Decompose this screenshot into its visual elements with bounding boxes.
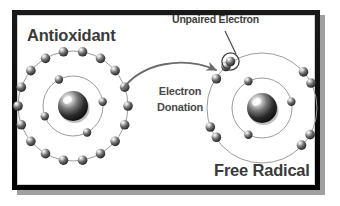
electron (55, 75, 63, 83)
unpaired-electron-label: Unpaired Electron (172, 14, 259, 25)
electron (17, 82, 27, 92)
electron (206, 122, 216, 132)
electron (110, 66, 120, 76)
electron (299, 67, 309, 77)
electron (59, 155, 69, 165)
electron-donation-line-2: Donation (144, 100, 216, 116)
electron (96, 54, 106, 64)
electron (78, 47, 88, 57)
electron (59, 47, 69, 57)
electron (26, 137, 36, 147)
electron (83, 128, 91, 136)
page-title-antioxidant: Antioxidant (27, 27, 116, 44)
electron (123, 101, 133, 111)
electron-donation-label: Electron Donation (144, 84, 216, 116)
electron (305, 130, 315, 140)
electron (287, 98, 295, 106)
electron (41, 149, 51, 159)
electron (78, 155, 88, 165)
electron (212, 132, 222, 142)
electron (96, 149, 106, 159)
electron (297, 140, 307, 150)
electron (13, 101, 23, 111)
figure-canvas: Antioxidant Free Radical Unpaired Electr… (0, 0, 340, 206)
page-title-free-radical: Free Radical (214, 162, 310, 179)
electron (41, 112, 49, 120)
electron (120, 120, 130, 130)
electron (110, 137, 120, 147)
electron (41, 54, 51, 64)
electron (17, 120, 27, 130)
electron (99, 98, 107, 106)
electron (306, 78, 316, 88)
electron (212, 74, 222, 84)
electron (26, 66, 36, 76)
electron-donation-line-1: Electron (144, 84, 216, 100)
electron (244, 131, 252, 139)
electron (244, 77, 252, 85)
